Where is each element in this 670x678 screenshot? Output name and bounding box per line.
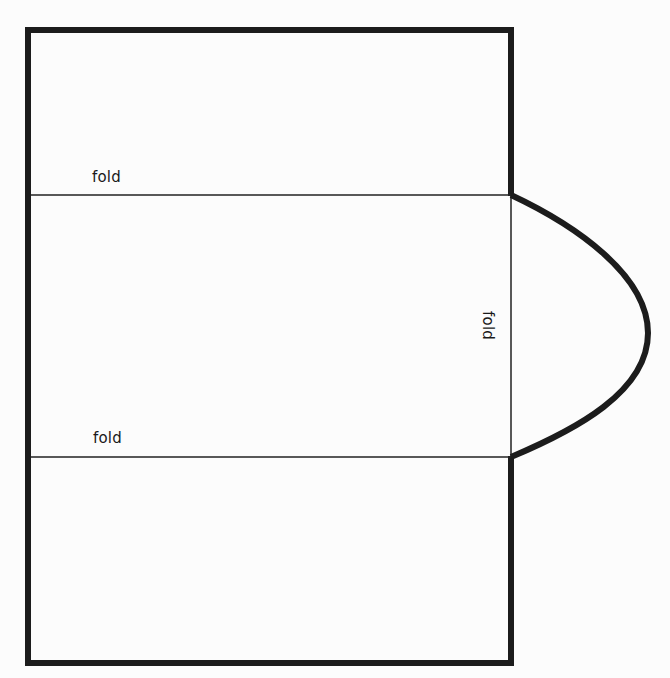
top-fold-label: fold [92,170,121,185]
bottom-fold-label: fold [93,431,122,446]
template-page: fold fold fold [0,0,670,678]
folding-template-diagram [0,0,670,678]
curved-flap-outline [511,195,648,457]
outer-border [28,30,511,663]
side-fold-label: fold [480,311,495,340]
